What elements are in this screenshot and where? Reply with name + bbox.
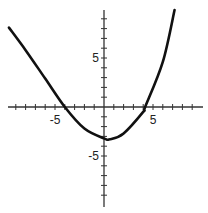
x-tick-label: 5 <box>150 113 157 127</box>
function-graph: -555-5 <box>0 0 208 213</box>
axes <box>8 10 203 207</box>
y-tick-label: 5 <box>92 51 99 65</box>
x-tick-label: -5 <box>50 113 61 127</box>
y-tick-label: -5 <box>88 149 99 163</box>
